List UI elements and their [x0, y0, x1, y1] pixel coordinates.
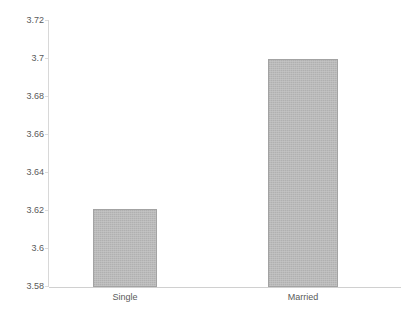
y-axis-tick-label: 3.64: [26, 167, 44, 177]
x-axis-category-label-single: Single: [93, 291, 157, 303]
bar-married: [268, 59, 338, 287]
x-axis-category-label-married: Married: [268, 291, 338, 303]
y-axis-tick-label: 3.58: [26, 281, 44, 291]
y-axis-tick-label: 3.66: [26, 129, 44, 139]
bar-texture: [269, 60, 337, 286]
bar-texture: [94, 210, 156, 286]
y-axis-tick-label: 3.6: [31, 243, 44, 253]
plot-area: [49, 20, 399, 287]
bar-chart: 3.72 3.7 3.68 3.66 3.64 3.62 3.6 3.58 Si…: [0, 0, 404, 314]
y-axis-tick-label: 3.62: [26, 205, 44, 215]
y-axis-tick-label: 3.7: [31, 53, 44, 63]
y-axis-tick-label: 3.72: [26, 15, 44, 25]
y-axis-tick-label: 3.68: [26, 91, 44, 101]
bar-single: [93, 209, 157, 287]
x-axis-line: [49, 287, 401, 288]
y-axis: 3.72 3.7 3.68 3.66 3.64 3.62 3.6 3.58: [0, 0, 44, 314]
